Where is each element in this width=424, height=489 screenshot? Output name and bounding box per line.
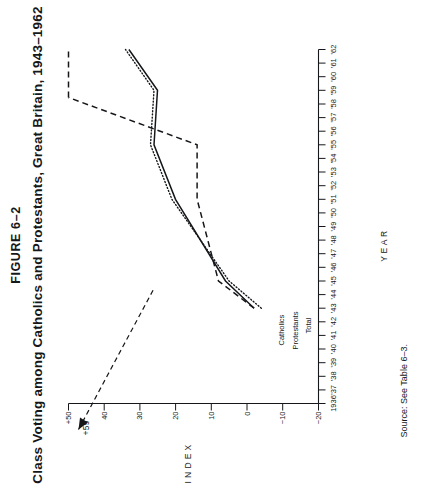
x-tick-label: '62	[328, 40, 337, 58]
callout-arrow	[78, 287, 154, 429]
y-tick-label: −20	[313, 411, 322, 451]
figure-page: FIGURE 6–2 Class Voting among Catholics …	[0, 0, 424, 489]
chart-svg	[62, 45, 352, 437]
y-tick-label: 0	[242, 411, 251, 451]
y-tick-label: +50	[63, 411, 72, 451]
series-line-total	[128, 49, 253, 308]
series-line-protestants	[125, 49, 261, 308]
x-axis-label: YEAR	[378, 0, 388, 489]
rotated-figure-canvas: FIGURE 6–2 Class Voting among Catholics …	[0, 0, 424, 489]
figure-title: Class Voting among Catholics and Protest…	[29, 0, 44, 489]
axis-lines	[68, 49, 318, 403]
y-tick-label: −10	[277, 411, 286, 451]
figure-number: FIGURE 6–2	[8, 0, 22, 489]
series-label-total: Total	[303, 317, 312, 333]
series-label-catholics: Catholics	[276, 314, 285, 345]
annotation-plus-59: +59	[80, 420, 90, 435]
figure-header: FIGURE 6–2 Class Voting among Catholics …	[8, 0, 44, 489]
y-tick-label: 30	[134, 411, 143, 451]
source-note: Source: See Table 6–3.	[398, 344, 408, 437]
plot-area: +50 40 30 20 10 0 −10 −20 1936'37'38'39'…	[62, 45, 352, 437]
series-label-protestants: Protestants	[290, 311, 299, 349]
y-tick-label: 10	[206, 411, 215, 451]
y-tick-label: 20	[170, 411, 179, 451]
y-tick-label: 40	[99, 411, 108, 451]
y-axis-label: INDEX	[182, 443, 192, 483]
